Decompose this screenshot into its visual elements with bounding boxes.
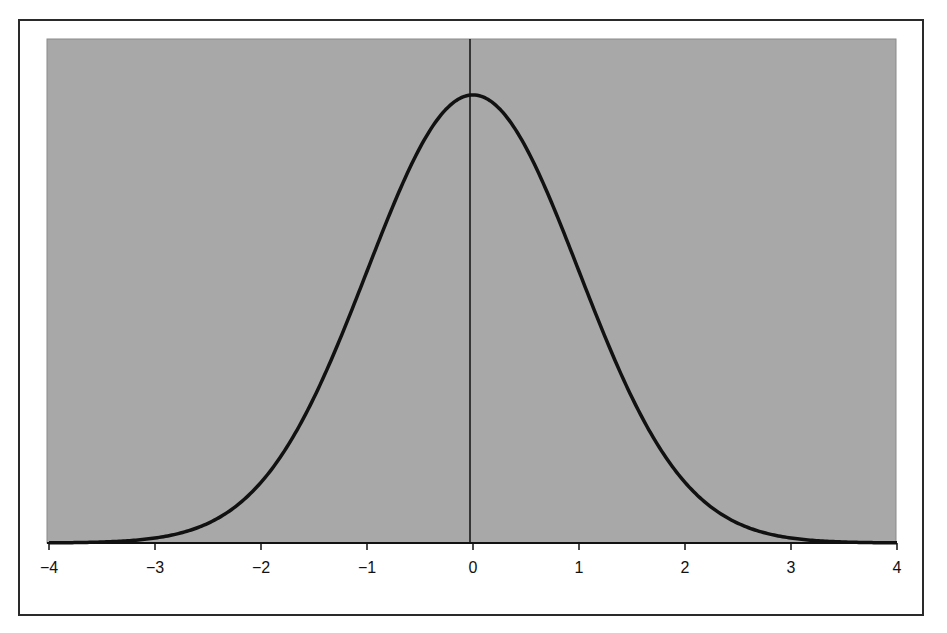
x-tick-label: 1 (575, 559, 584, 576)
x-tick-label: −3 (146, 559, 164, 576)
normal-curve-chart: −4−3−2−101234 (0, 0, 947, 633)
x-tick-label: 2 (681, 559, 690, 576)
plot-area (47, 39, 896, 543)
x-tick-label: 0 (469, 559, 478, 576)
x-tick-label: 4 (893, 559, 902, 576)
x-tick-label: −2 (252, 559, 270, 576)
x-tick-label: 3 (787, 559, 796, 576)
x-tick-label: −1 (358, 559, 376, 576)
x-axis-ticks: −4−3−2−101234 (40, 543, 902, 576)
x-tick-label: −4 (40, 559, 58, 576)
